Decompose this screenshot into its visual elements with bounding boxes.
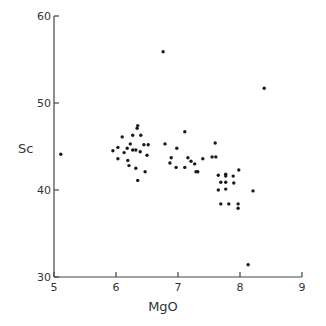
- y-axis-ticks: 30405060: [37, 10, 59, 284]
- data-point: [170, 156, 173, 159]
- data-point: [186, 156, 189, 159]
- data-point: [59, 153, 62, 156]
- data-point: [126, 147, 129, 150]
- data-point: [127, 164, 130, 167]
- x-axis-ticks: 56789: [51, 272, 306, 294]
- data-point: [163, 142, 166, 145]
- data-point: [139, 150, 142, 153]
- x-tick-label: 7: [175, 281, 182, 294]
- data-point: [193, 162, 196, 165]
- data-point: [217, 174, 220, 177]
- x-tick-label: 5: [51, 281, 58, 294]
- data-point: [183, 166, 186, 169]
- data-point: [122, 151, 125, 154]
- data-point: [232, 174, 235, 177]
- data-point: [175, 147, 178, 150]
- data-point: [219, 202, 222, 205]
- data-point: [224, 187, 227, 190]
- data-point: [263, 87, 266, 90]
- data-point: [224, 181, 227, 184]
- data-point: [236, 202, 239, 205]
- data-points: [59, 50, 266, 266]
- data-point: [174, 166, 177, 169]
- data-point: [145, 154, 148, 157]
- data-point: [134, 148, 137, 151]
- data-point: [214, 141, 217, 144]
- scatter-plot: 30405060 56789 Sc MgO: [0, 0, 326, 326]
- y-tick-label: 50: [37, 97, 51, 110]
- data-point: [236, 207, 239, 210]
- y-tick-label: 40: [37, 184, 51, 197]
- data-point: [189, 160, 192, 163]
- data-point: [129, 142, 132, 145]
- axes: [54, 16, 302, 277]
- y-axis-label: Sc: [18, 141, 33, 156]
- y-tick-label: 60: [37, 10, 51, 23]
- data-point: [116, 146, 119, 149]
- data-point: [196, 170, 199, 173]
- data-point: [232, 181, 235, 184]
- data-point: [217, 188, 220, 191]
- data-point: [131, 134, 134, 137]
- data-point: [214, 155, 217, 158]
- data-point: [143, 170, 146, 173]
- data-point: [147, 143, 150, 146]
- data-point: [219, 181, 222, 184]
- data-point: [246, 263, 249, 266]
- data-point: [136, 124, 139, 127]
- data-point: [134, 167, 137, 170]
- data-point: [139, 134, 142, 137]
- data-point: [168, 161, 171, 164]
- data-point: [183, 130, 186, 133]
- data-point: [227, 202, 230, 205]
- data-point: [116, 157, 119, 160]
- data-point: [161, 50, 164, 53]
- data-point: [251, 189, 254, 192]
- x-tick-label: 8: [237, 281, 244, 294]
- y-tick-label: 30: [37, 271, 51, 284]
- data-point: [201, 157, 204, 160]
- data-point: [210, 155, 213, 158]
- data-point: [111, 149, 114, 152]
- data-point: [224, 174, 227, 177]
- x-axis-label: MgO: [148, 299, 178, 314]
- data-point: [126, 159, 129, 162]
- data-point: [131, 148, 134, 151]
- data-point: [136, 179, 139, 182]
- data-point: [121, 135, 124, 138]
- x-tick-label: 6: [113, 281, 120, 294]
- data-point: [142, 143, 145, 146]
- data-point: [237, 168, 240, 171]
- x-tick-label: 9: [299, 281, 306, 294]
